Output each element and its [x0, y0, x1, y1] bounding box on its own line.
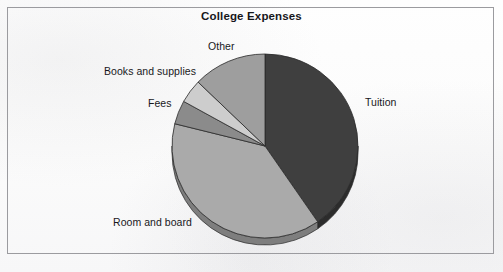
chart-screenshot: College Expenses Other Books and supplie…: [0, 0, 503, 272]
pie-label-books-and-supplies: Books and supplies: [104, 65, 196, 77]
pie-label-room-and-board: Room and board: [113, 216, 192, 228]
pie-label-fees: Fees: [148, 97, 172, 109]
pie-label-tuition: Tuition: [365, 96, 396, 108]
pie-label-other: Other: [208, 40, 235, 52]
pie-chart-graphic: [0, 0, 503, 272]
pie-slices: [172, 54, 358, 238]
